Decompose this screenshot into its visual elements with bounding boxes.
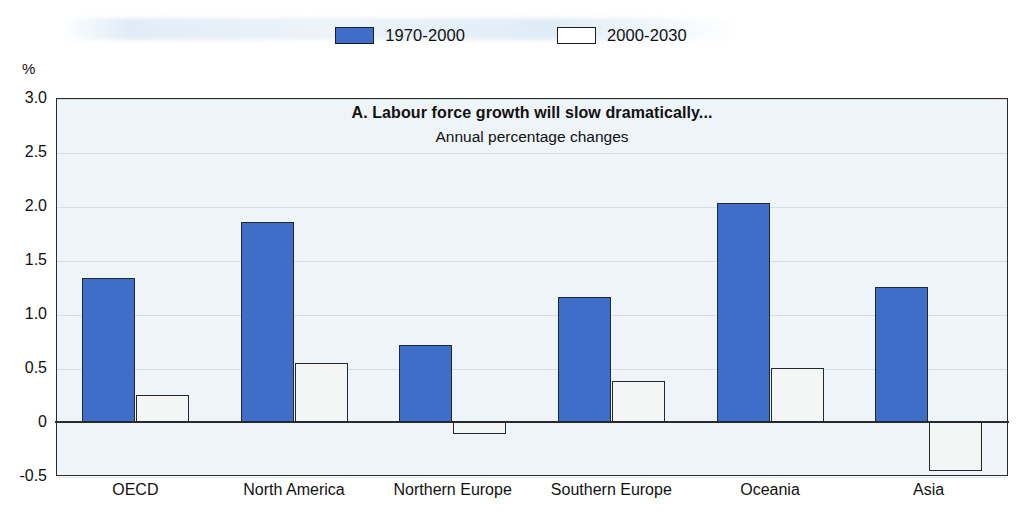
x-axis-category-label: Oceania [740, 481, 800, 499]
x-axis-category-label: OECD [112, 481, 158, 499]
bar-series-container [56, 98, 1008, 476]
gridline [57, 477, 1007, 478]
bar [558, 297, 611, 422]
y-axis-unit-label: % [22, 60, 35, 77]
bar [136, 395, 189, 422]
x-axis-category-label: Southern Europe [551, 481, 672, 499]
bar-group [875, 98, 982, 476]
legend-swatch-icon [335, 27, 374, 44]
y-axis-tick-label: 2.0 [1, 197, 47, 215]
legend-item-2000-2030: 2000-2030 [557, 26, 687, 45]
bar [875, 287, 928, 422]
bar [82, 278, 135, 422]
x-axis-category-label: Northern Europe [394, 481, 512, 499]
bar [771, 368, 824, 422]
bar-group [241, 98, 348, 476]
x-axis-category-label: Asia [913, 481, 944, 499]
bar [399, 345, 452, 422]
bar [295, 363, 348, 422]
bar [929, 422, 982, 471]
chart-legend: 1970-2000 2000-2030 [0, 22, 1022, 48]
bar [612, 381, 665, 422]
y-axis-tick-label: 1.5 [1, 251, 47, 269]
y-axis-tick-label: 2.5 [1, 143, 47, 161]
y-axis-tick-label: 0.5 [1, 359, 47, 377]
bar [453, 422, 506, 434]
y-axis-tick-label: -0.5 [1, 467, 47, 485]
bar [241, 222, 294, 422]
y-axis-tick-label: 3.0 [1, 89, 47, 107]
y-axis-tick-label: 1.0 [1, 305, 47, 323]
legend-label: 1970-2000 [385, 26, 465, 45]
x-axis-category-label: North America [243, 481, 344, 499]
y-axis-tick-label: 0 [1, 413, 47, 431]
x-axis-category-labels: OECDNorth AmericaNorthern EuropeSouthern… [56, 481, 1008, 511]
legend-item-1970-2000: 1970-2000 [335, 26, 465, 45]
bar-group [82, 98, 189, 476]
bar [717, 203, 770, 422]
bar-group [717, 98, 824, 476]
legend-label: 2000-2030 [607, 26, 687, 45]
bar-group [558, 98, 665, 476]
bar-group [399, 98, 506, 476]
legend-swatch-icon [557, 27, 596, 44]
